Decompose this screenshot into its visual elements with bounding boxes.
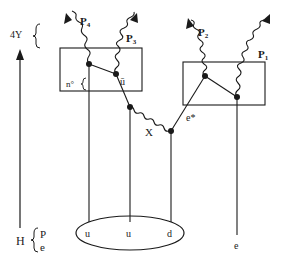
- brace-icon: [81, 78, 86, 90]
- label-x: X: [145, 126, 153, 138]
- label-p2: P2: [198, 26, 209, 40]
- label-e-star: e*: [186, 112, 195, 123]
- quark-lines: [89, 64, 237, 235]
- label-p1: P1: [258, 48, 269, 62]
- quark-d: d: [167, 228, 172, 239]
- initial-state-label: H P e: [16, 228, 46, 253]
- label-p3: P3: [126, 32, 137, 46]
- right-fragmentation-box: [183, 62, 265, 105]
- label-p4: P4: [80, 15, 91, 29]
- quark-u1: u: [85, 228, 90, 239]
- brace-icon: [31, 228, 38, 252]
- time-axis: [16, 49, 24, 228]
- photon-p3: P3: [115, 12, 138, 74]
- label-p: P: [40, 228, 46, 240]
- feynman-diagram: 4Y H P e n° ū: [0, 0, 285, 266]
- arrowhead-icon: [64, 13, 72, 24]
- arrowhead-icon: [186, 18, 194, 29]
- brace-icon: [33, 24, 40, 48]
- arrowhead-icon: [262, 14, 270, 24]
- quark-u2: u: [126, 228, 131, 239]
- photon-p4: P4: [64, 11, 91, 64]
- axis-arrowhead-icon: [16, 49, 24, 60]
- final-state-label: 4Y: [10, 24, 40, 48]
- label-e-initial: e: [40, 241, 45, 253]
- label-h: H: [16, 234, 25, 248]
- label-n0: n°: [66, 79, 75, 89]
- photon-p2: P2: [186, 18, 209, 76]
- label-electron: e: [234, 240, 239, 251]
- label-4y: 4Y: [10, 29, 22, 40]
